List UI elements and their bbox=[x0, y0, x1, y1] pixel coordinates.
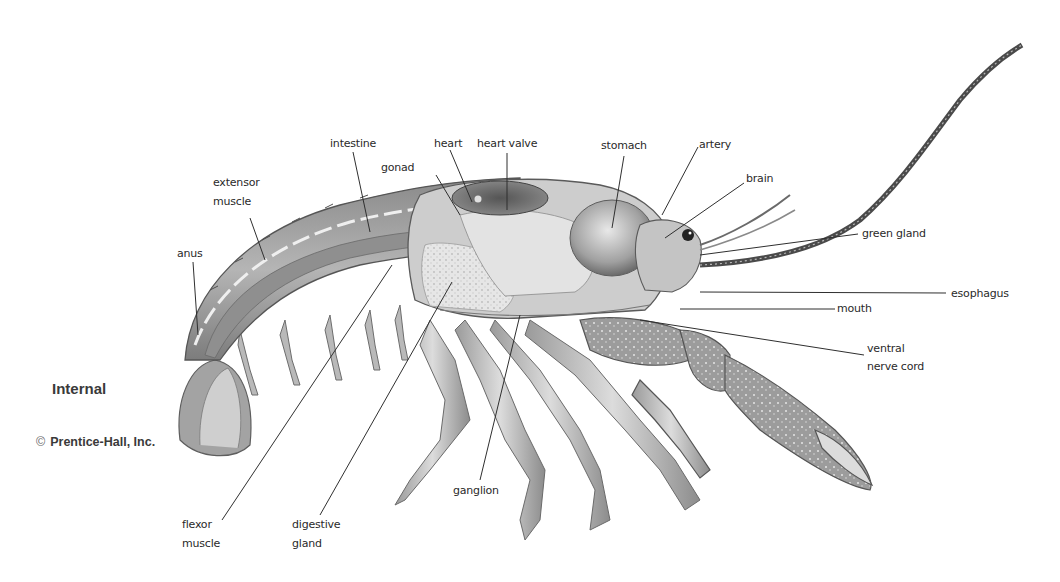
label-esophagus: esophagus bbox=[951, 287, 1009, 301]
label-extensor-muscle-1: extensor bbox=[213, 176, 260, 190]
copyright-text: Prentice-Hall, Inc. bbox=[50, 435, 155, 449]
label-heart: heart bbox=[434, 137, 462, 151]
label-artery: artery bbox=[699, 138, 731, 152]
label-digestive-gland-1: digestive bbox=[292, 518, 340, 532]
label-intestine: intestine bbox=[330, 137, 376, 151]
label-flexor-muscle-1: flexor bbox=[182, 518, 212, 532]
label-ganglion: ganglion bbox=[453, 484, 499, 498]
label-stomach: stomach bbox=[601, 139, 647, 153]
diagram-title: Internal bbox=[52, 380, 106, 397]
label-mouth: mouth bbox=[837, 302, 872, 316]
label-ventral-nerve-cord-1: ventral bbox=[867, 342, 904, 356]
swimmerets bbox=[238, 305, 408, 395]
label-gonad: gonad bbox=[381, 161, 414, 175]
label-digestive-gland-2: gland bbox=[292, 537, 322, 551]
label-ventral-nerve-cord-2: nerve cord bbox=[867, 360, 924, 374]
label-green-gland: green gland bbox=[862, 227, 926, 241]
eye bbox=[682, 229, 694, 241]
crayfish-illustration bbox=[0, 0, 1060, 582]
label-anus: anus bbox=[177, 247, 203, 261]
antenna bbox=[700, 45, 1022, 265]
copyright-notice: ©Prentice-Hall, Inc. bbox=[36, 435, 155, 449]
label-flexor-muscle-2: muscle bbox=[182, 537, 220, 551]
label-heart-valve: heart valve bbox=[477, 137, 537, 151]
copyright-icon: © bbox=[36, 435, 45, 449]
heart-shape bbox=[452, 181, 548, 215]
crayfish-diagram: intestine heart heart valve stomach arte… bbox=[0, 0, 1060, 582]
label-extensor-muscle-2: muscle bbox=[213, 195, 251, 209]
label-brain: brain bbox=[746, 172, 773, 186]
